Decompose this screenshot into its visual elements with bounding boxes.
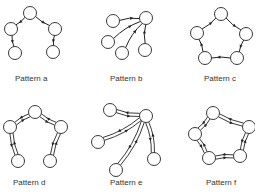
node-circle (140, 12, 153, 25)
pattern-a (5, 7, 62, 60)
node-circle (55, 121, 68, 134)
arrowhead-icon (222, 153, 225, 156)
edge-line (212, 57, 231, 58)
edges (10, 114, 61, 155)
node-circle (243, 121, 256, 134)
node-circle (240, 28, 253, 41)
node-circle (104, 104, 117, 117)
node-circle (24, 7, 37, 20)
node-circle (231, 52, 244, 65)
node-circle (102, 36, 115, 49)
node-circle (140, 110, 153, 123)
arrowhead-icon (217, 56, 220, 59)
node-circle (110, 164, 123, 177)
node-circle (215, 8, 228, 21)
arrowhead-icon (143, 30, 146, 33)
edge-line (103, 118, 140, 138)
label-pattern-b: Pattern b (110, 74, 142, 83)
edge-line (35, 17, 49, 26)
label-pattern-e: Pattern e (110, 178, 142, 187)
node-circle (207, 107, 220, 120)
node-circle (199, 52, 212, 65)
label-pattern-f: Pattern f (206, 178, 236, 187)
node-circle (191, 27, 204, 40)
arrowhead-icon (127, 114, 130, 117)
edge-line (144, 24, 146, 43)
pattern-f (189, 107, 256, 165)
pattern-d (4, 106, 68, 168)
node-circle (47, 46, 60, 59)
arrowhead-icon (223, 156, 226, 159)
communication-patterns-diagram (0, 0, 255, 193)
label-pattern-c: Pattern c (204, 74, 236, 83)
node-circle (107, 15, 120, 28)
node-circle (49, 23, 62, 36)
node-circle (9, 47, 22, 60)
node-circle (4, 121, 17, 134)
node-circle (203, 152, 216, 165)
pattern-b (102, 12, 153, 60)
node-circle (234, 150, 247, 163)
node-circle (12, 155, 25, 168)
node-circle (29, 106, 42, 119)
label-pattern-d: Pattern d (13, 178, 45, 187)
arrowhead-icon (10, 144, 13, 147)
edge-line (226, 18, 241, 30)
node-circle (5, 23, 18, 36)
edge-line (104, 121, 141, 141)
pattern-c (191, 8, 253, 65)
node-circle (44, 155, 57, 168)
edge-line (202, 18, 216, 29)
arrowhead-icon (52, 39, 55, 42)
label-pattern-a: Pattern a (15, 74, 47, 83)
pattern-e (92, 104, 161, 177)
edge-line (119, 18, 139, 20)
arrowhead-icon (149, 138, 152, 141)
node-circle (92, 136, 105, 149)
arrowhead-icon (130, 17, 133, 20)
node-circle (148, 153, 161, 166)
node-circle (189, 128, 202, 141)
edge-line (118, 121, 142, 164)
node-circle (139, 44, 152, 57)
node-circle (116, 47, 129, 60)
